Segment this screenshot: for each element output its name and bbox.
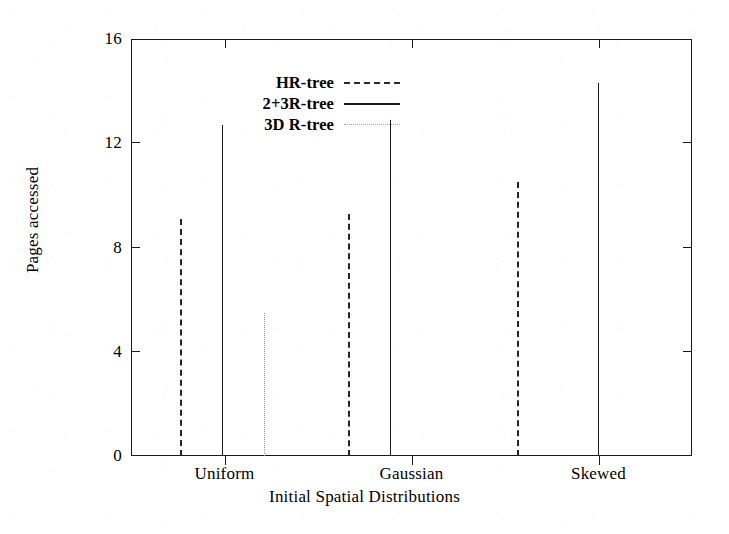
bar-skewed-2-3r-tree [598,83,599,456]
y-tick-label: 0 [88,446,122,466]
legend-label: 3D R-tree [264,115,334,135]
x-tick-mark-top [412,39,413,48]
bar-gaussian-hr-tree [348,214,350,456]
bar-uniform-3d-r-tree [264,313,265,456]
bar-skewed-hr-tree [517,182,519,456]
legend-entry: 2+3R-tree [185,93,400,114]
legend-entry: 3D R-tree [185,114,400,135]
bar-gaussian-2-3r-tree [390,120,391,456]
bar-uniform-hr-tree [180,219,182,456]
y-tick-label: 16 [88,29,122,49]
y-tick-mark [131,142,140,143]
y-tick-label: 8 [88,238,122,258]
bar-uniform-2-3r-tree [222,125,223,456]
x-tick-mark-top [599,39,600,48]
y-tick-mark-right [683,142,692,143]
legend-line-sample-icon [344,82,400,84]
x-axis-title: Initial Spatial Distributions [0,487,729,507]
chart-legend: HR-tree2+3R-tree3D R-tree [185,72,400,135]
legend-entry: HR-tree [185,72,400,93]
legend-line-sample-icon [344,103,400,105]
y-tick-label: 12 [88,133,122,153]
y-tick-mark-right [683,247,692,248]
x-tick-label: Gaussian [380,464,444,484]
y-axis-title: Pages accessed [23,135,43,305]
x-tick-label: Uniform [195,464,255,484]
legend-line-sample-icon [344,124,400,125]
x-tick-mark-top [225,39,226,48]
legend-label: 2+3R-tree [263,94,334,114]
y-tick-mark [131,247,140,248]
y-tick-mark [131,351,140,352]
legend-label: HR-tree [276,73,334,93]
y-tick-mark-right [683,351,692,352]
x-tick-label: Skewed [571,464,626,484]
y-tick-label: 4 [88,342,122,362]
chart-figure: Pages accessed 1612840 UniformGaussianSk… [0,0,729,534]
